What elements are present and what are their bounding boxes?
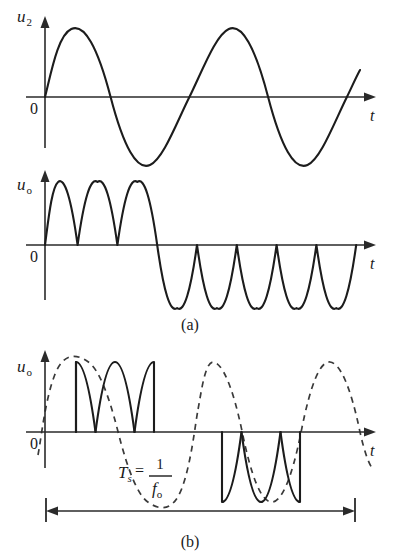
uo-rect-x-axis-arrowhead <box>364 241 376 250</box>
equation-denominator: fo <box>152 479 163 500</box>
uo-chop-axis-label: uo <box>17 357 33 378</box>
u2-origin-label: 0 <box>30 100 38 117</box>
u2-x-axis-arrowhead <box>364 93 376 102</box>
equation-operator: = <box>135 462 144 479</box>
u2-y-axis-arrowhead <box>41 16 50 28</box>
uo-rect-origin-label: 0 <box>30 248 38 265</box>
panel-uo-chopped: uo 0 t <box>17 350 376 508</box>
dimension-Ts-span <box>46 498 355 522</box>
caption-b: (b) <box>181 533 200 551</box>
chopped-positive-segment-3 <box>135 362 155 432</box>
equation-Ts: Ts = 1 fo <box>118 456 172 500</box>
equation-numerator: 1 <box>156 456 164 472</box>
u2-x-axis-label: t <box>370 107 375 124</box>
uo-chop-y-axis-arrowhead <box>41 350 50 362</box>
chopped-positive-segment-1 <box>76 362 96 432</box>
waveform-figure: u2 0 t uo 0 t (a) <box>0 0 394 560</box>
figure-root: u2 0 t uo 0 t (a) <box>0 0 394 560</box>
panel-uo-rectified: uo 0 t <box>17 170 376 309</box>
u2-axis-label: u2 <box>17 7 32 28</box>
uo-chop-origin-label: 0 <box>30 435 38 452</box>
uo-rect-y-axis-arrowhead <box>41 170 50 182</box>
dimension-arrowhead-left <box>46 507 58 516</box>
uo-rect-x-axis-label: t <box>370 255 375 272</box>
chopped-negative-segment-1 <box>222 432 242 502</box>
panel-u2-input: u2 0 t <box>17 7 376 166</box>
uo-rect-axis-label: uo <box>17 175 33 196</box>
dimension-arrowhead-right <box>343 507 355 516</box>
equation-lhs: Ts <box>118 463 132 484</box>
caption-a: (a) <box>181 316 199 334</box>
uo-chop-x-axis-label: t <box>370 442 375 459</box>
uo-chop-x-axis-arrowhead <box>364 428 376 437</box>
